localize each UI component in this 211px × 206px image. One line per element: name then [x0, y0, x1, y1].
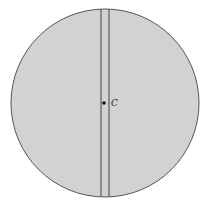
- center-label: C: [111, 98, 118, 108]
- center-point: [102, 101, 106, 105]
- disk-diagram: C: [0, 0, 211, 206]
